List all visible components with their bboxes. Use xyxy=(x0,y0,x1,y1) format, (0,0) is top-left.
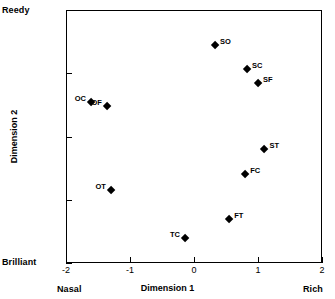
data-point-label: SF xyxy=(263,76,273,84)
x-axis-tick-label: -1 xyxy=(115,266,145,275)
y-axis-tick xyxy=(66,10,72,11)
y-axis-tick xyxy=(66,137,72,138)
y-axis-tick xyxy=(66,73,72,74)
y-axis-tick xyxy=(66,263,72,264)
data-point-label: TC xyxy=(170,231,180,239)
x-axis-tick xyxy=(130,257,131,263)
x-axis-tick xyxy=(194,257,195,263)
x-axis-title: Dimension 1 xyxy=(0,284,335,293)
x-axis-tick xyxy=(322,257,323,263)
x-axis-tick-label: 1 xyxy=(243,266,273,275)
x-axis-tick-label: 2 xyxy=(307,266,335,275)
data-point-label: FT xyxy=(234,212,243,220)
anchor-label-top-left: Reedy xyxy=(2,6,30,15)
data-point-label: OT xyxy=(95,183,105,191)
x-axis-tick xyxy=(258,257,259,263)
y-axis-tick xyxy=(66,200,72,201)
x-axis-tick-label: -2 xyxy=(51,266,81,275)
x-axis-tick xyxy=(66,257,67,263)
scatter-plot-figure: Reedy Brilliant Nasal Rich Dimension 1 D… xyxy=(0,0,335,299)
data-point-label: FC xyxy=(250,167,260,175)
data-point-label: ST xyxy=(269,142,279,150)
data-point-label: OF xyxy=(92,99,102,107)
data-point-label: OC xyxy=(75,95,86,103)
y-axis-title: Dimension 2 xyxy=(10,92,19,182)
anchor-label-bottom-left: Brilliant xyxy=(2,258,36,267)
plot-area xyxy=(66,10,322,263)
data-point-label: SO xyxy=(220,38,231,46)
data-point-label: SC xyxy=(252,62,262,70)
x-axis-tick-label: 0 xyxy=(179,266,209,275)
